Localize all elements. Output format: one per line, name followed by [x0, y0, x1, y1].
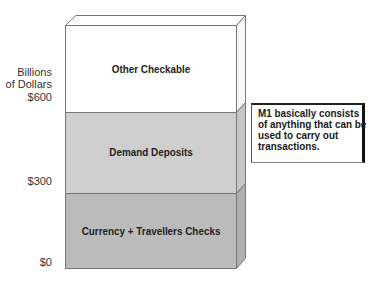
y-axis-title-line1: Billions — [17, 66, 52, 78]
label-demand-deposits: Demand Deposits — [109, 145, 193, 158]
label-currency: Currency + Travellers Checks — [82, 224, 221, 237]
y-tick-300: $300 — [28, 175, 52, 187]
bar-side-currency — [237, 184, 246, 269]
y-tick-600: $600 — [28, 91, 52, 103]
m1-definition-callout: M1 basically consists of anything that c… — [251, 103, 365, 163]
y-tick-0: $0 — [40, 256, 52, 268]
y-axis: Billions of Dollars $600 $300 $0 — [6, 66, 53, 268]
label-other-checkable: Other Checkable — [112, 62, 191, 75]
bar-top-face — [66, 16, 246, 26]
callout-line-4: transactions. — [258, 141, 347, 152]
y-axis-title-line2: of Dollars — [6, 78, 53, 90]
bar-side-other-checkable — [237, 16, 246, 113]
bar-side-demand-deposits — [237, 103, 246, 194]
